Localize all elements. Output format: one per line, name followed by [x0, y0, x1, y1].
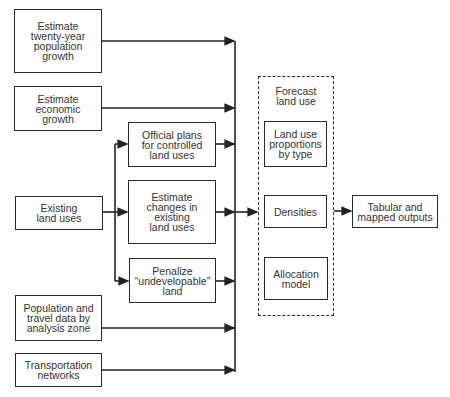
densities-box: Densities — [264, 195, 327, 228]
estimate-changes-box: Estimate changes in existing land uses — [128, 180, 216, 244]
estimate-population-growth-box: Estimate twenty-year population growth — [14, 9, 102, 73]
population-travel-data-box: Population and travel data by analysis z… — [15, 295, 102, 341]
allocation-model-box: Allocation model — [264, 257, 328, 300]
official-plans-box: Official plans for controlled land uses — [128, 122, 216, 167]
transportation-networks-box: Transportation networks — [15, 353, 102, 387]
penalize-undevelopable-box: Penalize “undevelopable” land — [129, 258, 216, 303]
existing-land-uses-box: Existing land uses — [15, 196, 103, 230]
tabular-mapped-outputs-box: Tabular and mapped outputs — [352, 195, 438, 228]
estimate-economic-growth-box: Estimate economic growth — [14, 86, 102, 131]
land-use-proportions-box: Land use proportions by type — [264, 121, 327, 167]
forecast-land-use-title: Forecast land use — [258, 86, 334, 106]
